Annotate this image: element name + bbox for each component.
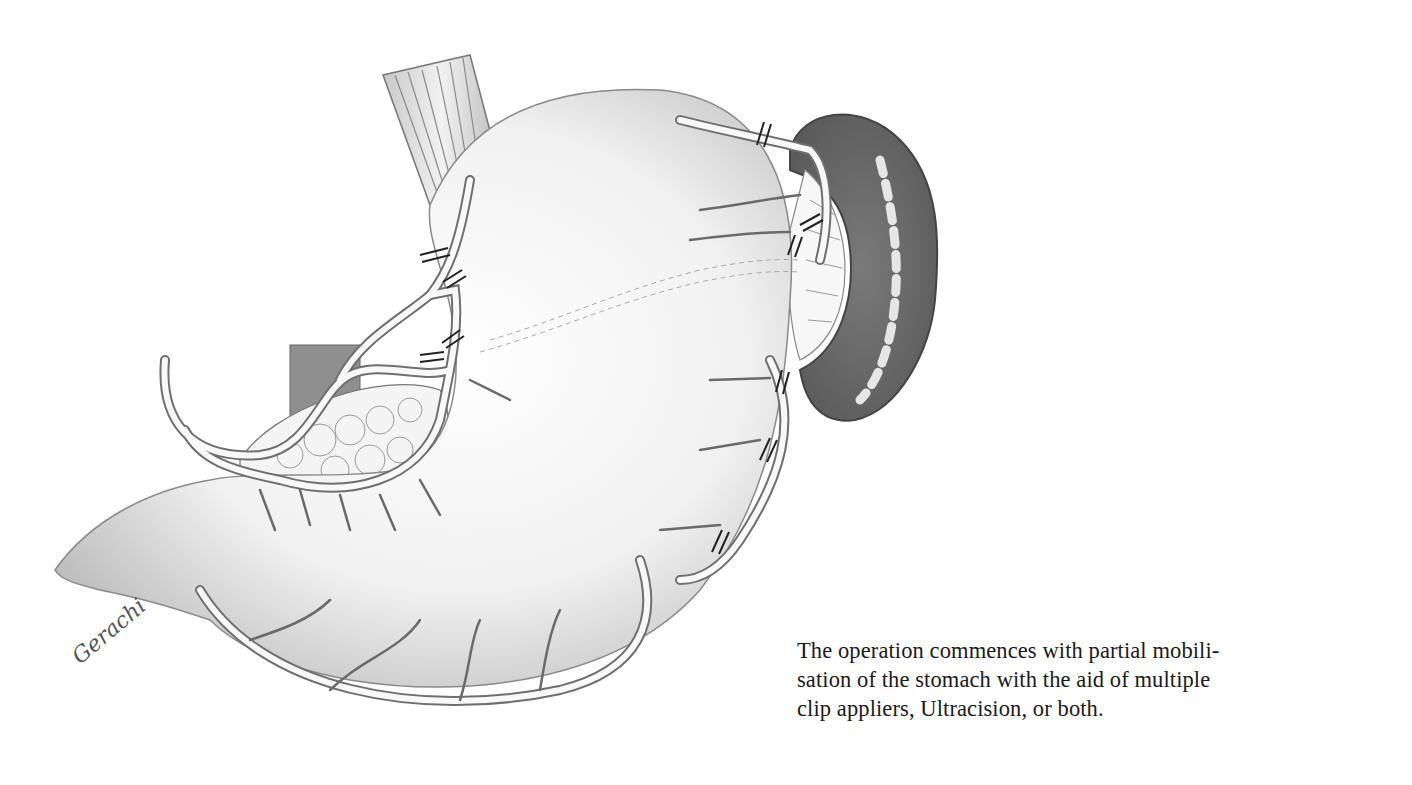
caption-line-3: clip appliers, Ultracision, or both. [797, 694, 1397, 723]
figure-caption: The operation commences with partial mob… [797, 636, 1397, 723]
caption-line-1: The operation commences with partial mob… [797, 636, 1397, 665]
caption-line-2: sation of the stomach with the aid of mu… [797, 665, 1397, 694]
spleen [788, 115, 937, 421]
artist-signature: Gerachi [67, 593, 150, 669]
